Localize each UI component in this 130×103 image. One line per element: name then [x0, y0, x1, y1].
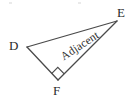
- vertex-label-d: D: [9, 39, 18, 52]
- right-angle-marker-icon: [52, 67, 65, 73]
- side-df-line: [27, 47, 58, 80]
- geometry-figure: D E F Adjacent: [0, 0, 130, 103]
- vertex-label-e: E: [117, 6, 125, 19]
- vertex-label-f: F: [53, 84, 60, 97]
